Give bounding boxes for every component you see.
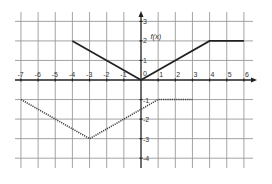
x-tick-label: -7 bbox=[17, 71, 23, 78]
axes bbox=[15, 11, 257, 168]
x-tick-label: -2 bbox=[103, 71, 109, 78]
x-axis-arrow-icon bbox=[251, 78, 257, 83]
y-axis-arrow-icon bbox=[139, 11, 144, 17]
x-tick-label: 3 bbox=[193, 71, 197, 78]
x-tick-label: 4 bbox=[211, 71, 215, 78]
y-tick-label: -2 bbox=[143, 116, 149, 123]
function-graph: -7-6-5-4-3-2-1123456321-1-2-3-40 f(x) bbox=[0, 0, 272, 184]
grid-lines bbox=[15, 12, 253, 168]
data-series bbox=[21, 41, 244, 139]
x-tick-label: -6 bbox=[35, 71, 41, 78]
annotations: f(x) bbox=[150, 32, 161, 41]
tick-labels: -7-6-5-4-3-2-1123456321-1-2-3-40 bbox=[17, 18, 248, 162]
x-tick-label: 6 bbox=[245, 71, 249, 78]
y-tick-label: 1 bbox=[143, 57, 147, 64]
x-tick-label: 5 bbox=[228, 71, 232, 78]
x-tick-label: -4 bbox=[69, 71, 75, 78]
x-tick-label: -5 bbox=[52, 71, 58, 78]
y-tick-label: -4 bbox=[143, 155, 149, 162]
x-tick-label: 1 bbox=[159, 71, 163, 78]
function-label: f(x) bbox=[150, 32, 161, 41]
coordinate-plane: -7-6-5-4-3-2-1123456321-1-2-3-40 f(x) bbox=[0, 0, 272, 184]
x-tick-label: -3 bbox=[86, 71, 92, 78]
y-tick-label: -3 bbox=[143, 136, 149, 143]
y-tick-label: -1 bbox=[143, 97, 149, 104]
y-tick-label: 3 bbox=[143, 18, 147, 25]
y-tick-label: 2 bbox=[143, 37, 147, 44]
x-tick-label: 2 bbox=[176, 71, 180, 78]
